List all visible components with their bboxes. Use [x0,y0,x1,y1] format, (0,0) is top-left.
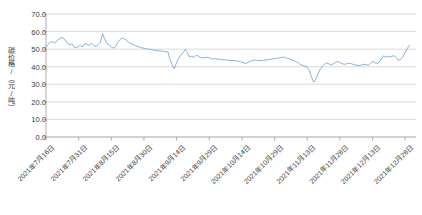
y-axis-tick-label: 20.0 [16,97,46,106]
y-axis-tick-label: 50.0 [16,45,46,54]
y-axis-tick-label: 10.0 [16,115,46,124]
y-axis-tick-label: 60.0 [16,27,46,36]
y-axis-tick-label: 70.0 [16,10,46,19]
plot-area [0,0,422,215]
y-axis-tick-label: 30.0 [16,80,46,89]
y-axis-tick-label: 0.0 [16,133,46,142]
y-axis-tick-label: 40.0 [16,62,46,71]
y-axis-tick-labels: 0.010.020.030.040.050.060.070.0 [8,0,46,215]
carbon-price-line-chart: 碳价格/（元/吨） 0.010.020.030.040.050.060.070.… [0,0,422,215]
data-series-line [46,34,409,83]
